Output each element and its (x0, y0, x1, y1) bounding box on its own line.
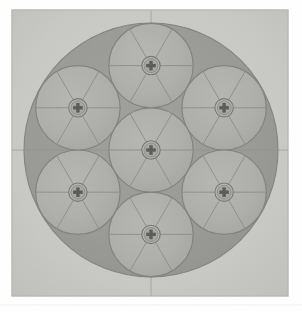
scan-grain-overlay (12, 10, 288, 296)
figure-root: Hexagonal close packing of seven circles (0, 0, 302, 315)
circle-packing-diagram: Hexagonal close packing of seven circles (0, 0, 302, 315)
